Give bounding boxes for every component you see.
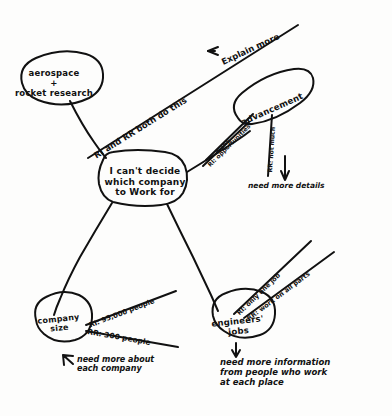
mindmap-canvas: aerospace + rocket research I can't deci…: [0, 0, 392, 416]
rule-rr-not-much: [268, 115, 272, 176]
node-shape-engineers: [213, 289, 276, 338]
arrow-need-company: [63, 355, 73, 365]
arrow-need-info: [232, 343, 240, 357]
edge-center-engineers: [167, 204, 218, 311]
node-shape-center: [99, 150, 188, 206]
mindmap-strokes: [0, 0, 392, 416]
rule-both-do-this: [88, 25, 298, 158]
rule-advancement-ri: [203, 122, 249, 166]
node-shape-advancement: [234, 69, 314, 124]
arrow-need-details: [281, 156, 289, 180]
rule-advancement-many: [206, 114, 253, 160]
rule-ri-people: [86, 291, 176, 325]
node-shape-company-size: [35, 292, 92, 342]
node-shape-aerospace: [21, 51, 103, 104]
rule-rr-people: [86, 331, 178, 347]
